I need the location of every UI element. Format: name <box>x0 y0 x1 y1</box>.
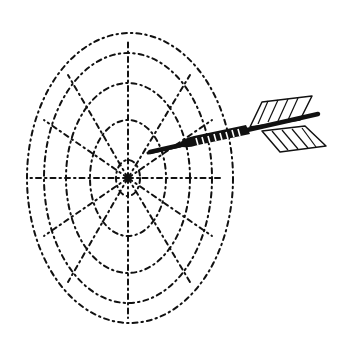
dartboard-icon <box>27 33 233 323</box>
dartboard-illustration <box>0 0 349 339</box>
illustration-canvas: Dart hitting a dartboard <box>0 0 349 339</box>
dart-icon <box>148 96 326 153</box>
dart-flight <box>250 96 326 152</box>
